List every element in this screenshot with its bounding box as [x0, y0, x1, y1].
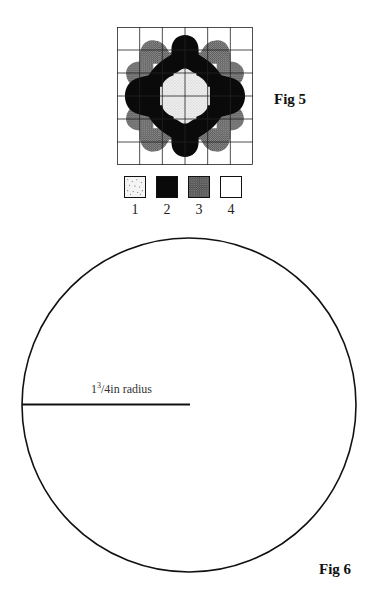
fig6-circle-template [0, 0, 378, 604]
radius-label: 13/4in radius [91, 381, 152, 397]
radius-denominator: 4in radius [104, 382, 152, 396]
radius-numerator: 3 [97, 381, 101, 390]
fig6-caption: Fig 6 [319, 561, 351, 578]
